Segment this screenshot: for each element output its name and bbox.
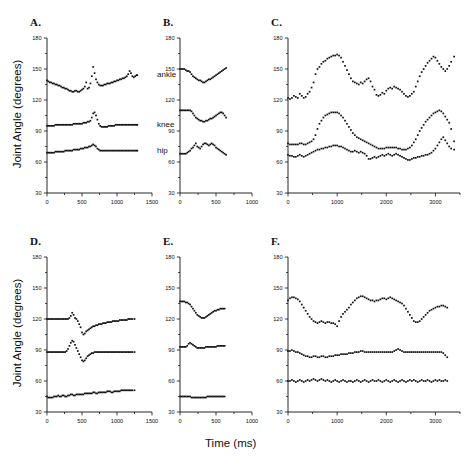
series-label-hip: hip [157,146,168,155]
svg-text:0: 0 [286,418,289,424]
series-hip-B [179,143,227,156]
svg-text:90: 90 [276,128,282,134]
svg-text:30: 30 [276,190,282,196]
svg-text:120: 120 [165,316,174,322]
svg-text:90: 90 [168,128,174,134]
svg-text:500: 500 [211,199,220,205]
svg-text:120: 120 [32,316,41,322]
svg-text:150: 150 [273,285,282,291]
svg-text:1500: 1500 [146,418,158,424]
series-knee-E [179,342,225,349]
svg-text:30: 30 [168,409,174,415]
x-axis-label: Time (ms) [205,437,256,449]
panel-letter-E: E. [163,235,174,247]
y-axis-label: Joint Angle (degrees) [10,255,22,410]
panel-plot-F: 3060901201501800100020003000 [288,257,476,438]
svg-text:60: 60 [276,159,282,165]
svg-text:2000: 2000 [380,199,392,205]
svg-text:0: 0 [178,418,181,424]
svg-text:60: 60 [276,378,282,384]
figure-root: A.Joint Angle (degrees)30609012015018005… [0,0,476,464]
panel-letter-D: D. [30,235,41,247]
svg-text:1000: 1000 [246,418,258,424]
svg-text:150: 150 [32,285,41,291]
svg-text:180: 180 [273,254,282,260]
svg-text:180: 180 [165,254,174,260]
series-ankle-C [287,54,455,100]
svg-text:150: 150 [273,66,282,72]
svg-text:180: 180 [165,35,174,41]
series-knee-B [179,109,227,122]
svg-text:60: 60 [35,378,41,384]
svg-text:150: 150 [165,285,174,291]
series-knee-A [46,112,138,128]
svg-text:90: 90 [35,347,41,353]
svg-text:90: 90 [168,347,174,353]
svg-text:90: 90 [276,347,282,353]
y-axis-label: Joint Angle (degrees) [10,36,22,191]
svg-text:1500: 1500 [146,199,158,205]
svg-text:1000: 1000 [246,199,258,205]
series-knee-D [46,340,135,362]
svg-text:180: 180 [32,35,41,41]
svg-text:180: 180 [273,35,282,41]
panel-letter-B: B. [163,16,174,28]
panel-plot-D: 306090120150180050010001500 [47,257,178,438]
svg-text:500: 500 [77,418,86,424]
svg-text:180: 180 [32,254,41,260]
svg-text:120: 120 [273,316,282,322]
svg-text:120: 120 [165,97,174,103]
svg-text:30: 30 [35,409,41,415]
svg-text:3000: 3000 [429,418,441,424]
svg-text:150: 150 [32,66,41,72]
svg-text:30: 30 [168,190,174,196]
svg-text:120: 120 [32,97,41,103]
svg-text:3000: 3000 [429,199,441,205]
series-hip-D [46,389,135,398]
panel-letter-C: C. [271,16,282,28]
svg-text:500: 500 [211,418,220,424]
series-hip-F [287,378,448,383]
series-hip-E [179,396,225,399]
svg-text:60: 60 [168,378,174,384]
svg-text:0: 0 [286,199,289,205]
svg-text:30: 30 [35,190,41,196]
svg-text:0: 0 [178,199,181,205]
svg-text:1000: 1000 [331,199,343,205]
series-hip-C [287,136,455,160]
svg-text:1000: 1000 [111,199,123,205]
svg-text:1000: 1000 [111,418,123,424]
series-ankle-D [46,312,135,335]
svg-text:500: 500 [77,199,86,205]
panel-plot-E: 30609012015018005001000 [180,257,278,438]
panel-letter-A: A. [30,16,41,28]
svg-text:90: 90 [35,128,41,134]
panel-letter-F: F. [271,235,280,247]
svg-text:60: 60 [35,159,41,165]
svg-text:0: 0 [45,199,48,205]
svg-text:60: 60 [168,159,174,165]
svg-text:2000: 2000 [380,418,392,424]
series-knee-F [287,348,448,358]
series-ankle-F [287,295,448,327]
series-ankle-A [46,66,138,93]
panel-plot-B: 30609012015018005001000 [180,38,278,219]
series-ankle-B [179,67,227,83]
panel-plot-C: 3060901201501800100020003000 [288,38,476,219]
svg-text:1000: 1000 [331,418,343,424]
svg-text:0: 0 [45,418,48,424]
svg-text:30: 30 [276,409,282,415]
svg-text:150: 150 [165,66,174,72]
series-ankle-E [179,301,225,319]
series-knee-C [287,109,455,150]
series-hip-A [46,144,138,154]
svg-text:120: 120 [273,97,282,103]
